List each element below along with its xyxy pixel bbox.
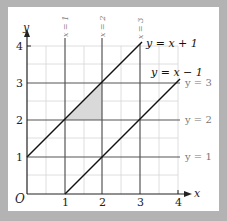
y-axis-label: y	[22, 21, 30, 34]
label-y-eq-2: y = 2	[184, 114, 212, 125]
x-tick-4: 4	[175, 196, 182, 209]
x-tick-3: 3	[137, 196, 144, 209]
y-tick-3: 3	[16, 77, 23, 90]
origin-label: O	[15, 192, 25, 206]
x-axis-arrow-icon	[184, 191, 192, 197]
label-x-eq-2: x = 2	[98, 16, 107, 37]
y-tick-2: 2	[16, 114, 23, 127]
x-tick-2: 2	[99, 196, 106, 209]
x-axis-label: x	[194, 187, 201, 200]
label-y-eq-x-plus-1: y = x + 1	[145, 37, 198, 50]
coordinate-graph: y x O 1 2 3 4 1 2 3 4 x = 1 x = 2 x = 3 …	[0, 0, 227, 221]
label-y-eq-x-minus-1: y = x − 1	[150, 66, 203, 79]
label-x-eq-3: x = 3	[136, 18, 145, 39]
x-tick-1: 1	[62, 196, 69, 209]
axes	[27, 36, 185, 194]
diagonal-lines	[27, 42, 180, 194]
horizontal-lines	[27, 83, 180, 157]
label-y-eq-1: y = 1	[184, 151, 212, 162]
y-tick-4: 4	[16, 40, 23, 53]
label-x-eq-1: x = 1	[61, 16, 70, 37]
y-tick-1: 1	[16, 151, 23, 164]
